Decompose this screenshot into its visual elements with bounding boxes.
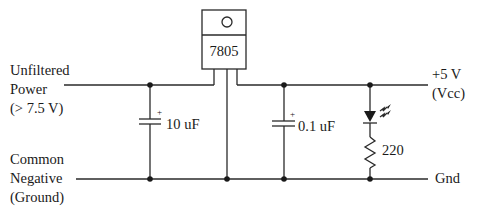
led-branch: 220 [363,85,404,179]
common-negative-label: Common Negative (Ground) [10,151,68,206]
light-emission-arrows-icon [380,104,391,117]
gnd-label: Gnd [435,170,461,186]
regulator-body [202,10,246,69]
junction-dot [281,82,287,88]
input-capacitor-value: 10 uF [166,116,199,132]
schematic: 7805 Unfiltered Power (> 7.5 V) Common N… [0,0,478,212]
led-icon [364,111,376,122]
input-capacitor: + 10 uF [139,85,199,179]
polarity-plus-icon: + [290,109,295,119]
junction-dot [367,82,373,88]
output-capacitor: + 0.1 uF [272,85,335,179]
mounting-hole-icon [222,17,232,27]
polarity-plus-icon: + [157,107,162,117]
junction-dot [281,176,287,182]
output-capacitor-value: 0.1 uF [298,118,335,134]
junction-dot [224,176,230,182]
unfiltered-power-label: Unfiltered Power (> 7.5 V) [10,62,73,117]
junction-dot [147,176,153,182]
junction-dot [147,82,153,88]
resistor-value: 220 [382,142,404,158]
regulator-7805: 7805 [202,10,246,179]
junction-dot [367,176,373,182]
regulator-part-label: 7805 [210,43,239,59]
vcc-label: +5 V (Vcc) [432,66,465,102]
resistor-icon [365,137,375,168]
